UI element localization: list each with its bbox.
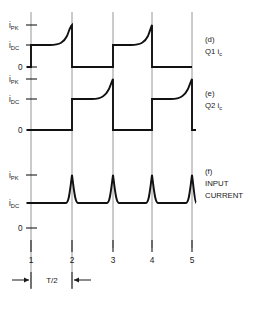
axis-label-d-idc: iDC [9,41,19,51]
waveform-figure: iPK iDC 0 iPK iDC 0 iPK [0,0,256,312]
period-dimension: T/2 [12,272,91,289]
trace-label-d-name: Q1 ic [205,47,222,57]
trace-label-f-line1: INPUT [205,179,229,188]
axis-label-f-zero: 0 [18,224,23,233]
xtick-label-2: 2 [70,255,75,265]
trace-label-e-tag: (e) [205,89,215,98]
xtick-label-4: 4 [150,255,155,265]
gridlines [31,12,192,288]
axis-label-f-idc: iDC [9,199,19,209]
waveform-e-trace [27,79,196,130]
trace-label-d-tag: (d) [205,35,215,44]
waveform-svg: iPK iDC 0 iPK iDC 0 iPK [0,0,256,312]
axis-label-f-ipk: iPK [9,171,19,181]
panel-d: iPK iDC 0 [9,21,192,72]
dim-arrow-right-head [74,278,79,283]
axis-label-e-zero: 0 [18,126,23,135]
trace-label-f-line2: CURRENT [205,191,243,200]
trace-legend: (d) Q1 ic (e) Q2 ic (f) INPUT CURRENT [205,35,243,200]
axis-label-e-ipk: iPK [9,75,19,85]
xtick-label-5: 5 [190,255,195,265]
waveform-f-trace [27,175,196,203]
dim-label-t-over-2: T/2 [46,276,58,285]
axis-label-d-zero: 0 [18,63,23,72]
xtick-label-1: 1 [29,255,34,265]
x-axis: 1 2 3 4 5 [29,240,195,265]
axis-label-e-idc: iDC [9,95,19,105]
trace-label-f-tag: (f) [205,167,213,176]
panel-e: iPK iDC 0 [9,75,196,135]
panel-f: iPK iDC 0 [9,171,196,233]
trace-label-e-name: Q2 ic [205,101,222,111]
xtick-label-3: 3 [111,255,116,265]
axis-label-d-ipk: iPK [9,21,19,31]
waveform-d-trace [27,25,192,67]
dim-arrow-left-head [24,278,29,283]
